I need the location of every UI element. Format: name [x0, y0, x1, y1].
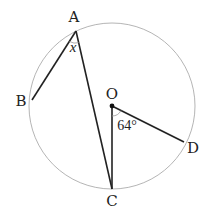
angle-label-64: 64°	[117, 118, 137, 133]
segment-AC	[76, 31, 112, 189]
label-O: O	[106, 85, 118, 103]
label-D: D	[187, 139, 199, 157]
center-point-O	[110, 104, 115, 109]
label-B: B	[15, 92, 26, 110]
label-C: C	[106, 192, 117, 210]
label-A: A	[68, 8, 80, 26]
angle-label-x: x	[69, 39, 77, 55]
circle-diagram: A B C D O x 64°	[0, 0, 208, 218]
angle-arc-O	[112, 111, 121, 117]
